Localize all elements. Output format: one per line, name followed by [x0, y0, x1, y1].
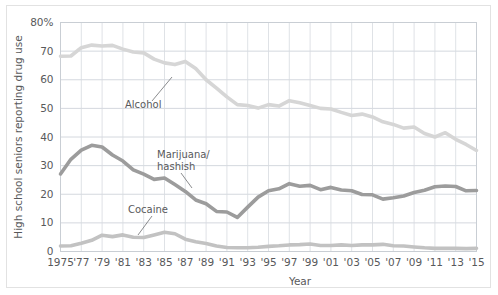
x-tick-label: '89	[198, 256, 214, 268]
x-tick-label: '09	[406, 256, 422, 268]
x-tick-label: '03	[344, 256, 360, 268]
grid-layer	[61, 23, 477, 252]
chart-figure: 01020304050607080% 1975'77'79'81'83'85'8…	[0, 0, 498, 295]
x-tick-label: 1975	[47, 256, 74, 268]
series-annotations: AlcoholMarijuana/hashishCocaine	[125, 77, 210, 235]
x-tick-label: '87	[177, 256, 193, 268]
series-annotation-label: Alcohol	[125, 99, 161, 110]
y-tick-label: 60	[40, 73, 53, 85]
y-axis-title: High school seniors reporting drug use	[12, 35, 24, 238]
x-tick-label: '97	[281, 256, 297, 268]
x-tick-label: '99	[302, 256, 318, 268]
annotation-leader-line	[138, 216, 152, 235]
y-tick-label: 30	[40, 159, 53, 171]
x-tick-label: '11	[427, 256, 443, 268]
x-tick-label: '83	[136, 256, 152, 268]
y-tick-label: 80%	[30, 16, 53, 28]
series-annotation-label: hashish	[157, 161, 195, 172]
x-tick-label: '05	[364, 256, 380, 268]
annotation-leader-line	[181, 173, 192, 188]
x-axis-title: Year	[288, 275, 312, 287]
x-axis-tick-labels: 1975'77'79'81'83'85'87'89'91'93'95'97'99…	[47, 256, 484, 268]
x-tick-label: '79	[94, 256, 110, 268]
line-chart: 01020304050607080% 1975'77'79'81'83'85'8…	[0, 0, 498, 295]
y-tick-label: 10	[40, 216, 53, 228]
annotation-leader-line	[152, 77, 172, 101]
y-axis-tick-labels: 01020304050607080%	[30, 16, 53, 257]
x-tick-label: '77	[73, 256, 89, 268]
x-tick-label: '85	[156, 256, 172, 268]
y-tick-label: 70	[40, 45, 53, 57]
y-tick-label: 50	[40, 102, 53, 114]
series-annotation-label: Marijuana/	[157, 149, 210, 160]
series-annotation-label: Cocaine	[128, 204, 168, 215]
x-tick-label: '07	[385, 256, 401, 268]
x-tick-label: '93	[240, 256, 256, 268]
x-tick-label: '91	[219, 256, 235, 268]
x-tick-label: '95	[260, 256, 276, 268]
x-tick-label: '13	[448, 256, 464, 268]
y-tick-label: 20	[40, 188, 53, 200]
y-tick-label: 40	[40, 131, 53, 143]
x-tick-label: '81	[115, 256, 131, 268]
x-tick-label: '01	[323, 256, 339, 268]
x-tick-label: '15	[468, 256, 484, 268]
